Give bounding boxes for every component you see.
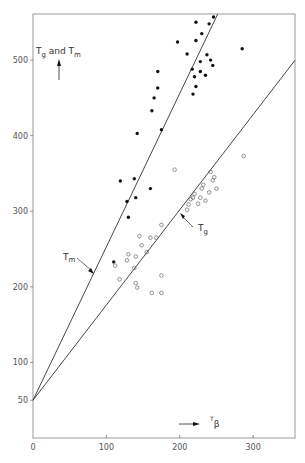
tg-point bbox=[138, 234, 142, 238]
tg-point bbox=[160, 291, 164, 295]
tg-point bbox=[193, 192, 197, 196]
tg-point bbox=[118, 277, 122, 281]
tm-point bbox=[176, 40, 179, 43]
tm-point bbox=[193, 75, 196, 78]
tm-point bbox=[150, 109, 153, 112]
tg-point bbox=[154, 236, 158, 240]
tg-point bbox=[160, 274, 164, 278]
tm-point bbox=[112, 260, 115, 263]
y-tick-label: 300 bbox=[13, 207, 28, 216]
y-tick-label: 100 bbox=[13, 358, 28, 367]
tm-point bbox=[125, 200, 128, 203]
tm-pointer-icon bbox=[77, 258, 92, 271]
tm-point bbox=[185, 52, 188, 55]
x-tick-label: 100 bbox=[99, 443, 114, 452]
tm-point bbox=[204, 74, 207, 77]
tg-point bbox=[242, 154, 246, 158]
y-axis-title-text: Tg and Tm bbox=[35, 46, 81, 59]
y-tick-label: 50 bbox=[18, 396, 28, 405]
x-tick-label: 0 bbox=[30, 443, 35, 452]
y-tick-label: 200 bbox=[13, 283, 28, 292]
x-axis-title-text: Tβ bbox=[209, 415, 220, 429]
tg-point bbox=[134, 255, 138, 259]
tg-point bbox=[113, 264, 117, 268]
tg-point bbox=[135, 286, 139, 290]
tm-point bbox=[136, 132, 139, 135]
tg-label-text: Tg bbox=[197, 223, 208, 236]
y-tick-label: 500 bbox=[13, 56, 28, 65]
tg-point bbox=[201, 183, 205, 187]
tm-point bbox=[156, 86, 159, 89]
tg-point bbox=[140, 243, 144, 247]
tg-point bbox=[215, 187, 219, 191]
tm-point bbox=[194, 85, 197, 88]
tg-point bbox=[212, 175, 216, 179]
tg-point bbox=[207, 191, 211, 195]
tm-point bbox=[127, 216, 130, 219]
fit-lines bbox=[33, 14, 295, 400]
tm-point bbox=[191, 92, 194, 95]
tm-point bbox=[194, 39, 197, 42]
tm-point bbox=[240, 47, 243, 50]
tg-line-label: Tg bbox=[180, 213, 208, 236]
tg-point bbox=[125, 259, 129, 263]
line-tg bbox=[33, 60, 295, 400]
tm-label-text: Tm bbox=[62, 252, 76, 264]
tg-point bbox=[149, 236, 153, 240]
tg-point bbox=[187, 203, 191, 207]
tg-point bbox=[185, 208, 189, 212]
tg-point bbox=[160, 223, 164, 227]
data-points bbox=[112, 15, 245, 294]
tm-point bbox=[191, 67, 194, 70]
x-tick-label: 200 bbox=[172, 443, 187, 452]
tg-point bbox=[134, 281, 138, 285]
tm-point bbox=[156, 70, 159, 73]
y-axis-title: Tg and Tm bbox=[35, 46, 81, 80]
tm-point bbox=[149, 187, 152, 190]
tm-line-label: Tm bbox=[62, 252, 94, 274]
tm-point bbox=[200, 32, 203, 35]
tm-point bbox=[211, 64, 214, 67]
tm-point bbox=[209, 58, 212, 61]
tm-point bbox=[212, 15, 215, 18]
tg-point bbox=[196, 202, 200, 206]
tg-point bbox=[200, 187, 204, 191]
tg-point bbox=[204, 199, 208, 203]
plot-border bbox=[33, 14, 295, 438]
tm-point bbox=[205, 53, 208, 56]
x-tick-label: 300 bbox=[246, 443, 261, 452]
tm-point bbox=[199, 70, 202, 73]
x-axis-arrowhead-icon bbox=[193, 422, 200, 426]
tm-point bbox=[199, 60, 202, 63]
tm-point bbox=[119, 179, 122, 182]
x-axis-title: Tβ bbox=[179, 415, 220, 429]
y-axis-arrowhead-icon bbox=[57, 59, 61, 66]
tm-point bbox=[152, 96, 155, 99]
tm-pointer-arrowhead-icon bbox=[88, 268, 94, 274]
plot-frame bbox=[33, 14, 295, 438]
tm-point bbox=[194, 21, 197, 24]
line-tm bbox=[33, 14, 218, 400]
tg-point bbox=[199, 196, 203, 200]
tg-point bbox=[150, 291, 154, 295]
chart: 0100200300 50100200300400500 Tg and Tm T… bbox=[0, 0, 305, 463]
tg-point bbox=[127, 253, 131, 257]
tm-point bbox=[207, 22, 210, 25]
tm-point bbox=[133, 177, 136, 180]
y-tick-label: 400 bbox=[13, 132, 28, 141]
tm-point bbox=[134, 196, 137, 199]
y-axis-ticks: 50100200300400500 bbox=[13, 56, 33, 405]
tm-point bbox=[160, 128, 163, 131]
tg-point bbox=[173, 168, 177, 172]
